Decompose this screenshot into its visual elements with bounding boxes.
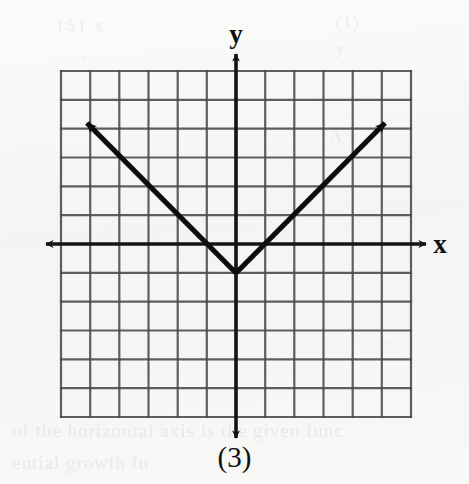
curve-left-ray: [87, 123, 236, 273]
curve-right-ray: [236, 123, 385, 273]
coordinate-plane-figure: x y: [0, 0, 469, 484]
y-axis-label: y: [229, 19, 243, 49]
x-axis-label: x: [433, 229, 447, 259]
figure-caption: (3): [0, 443, 469, 472]
axes: [46, 54, 426, 438]
